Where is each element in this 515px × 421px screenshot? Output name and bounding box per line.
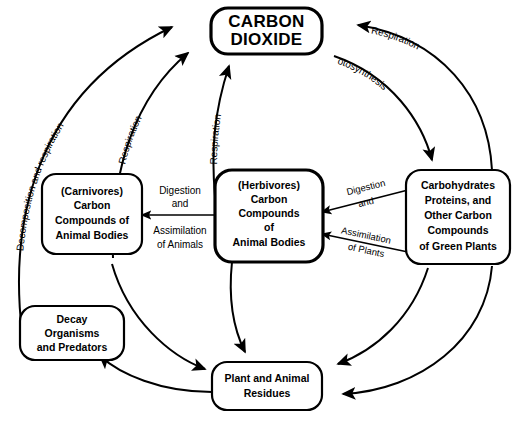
herbivores-line-1: (Herbivores) xyxy=(238,179,300,191)
carnivores-line-4: Animal Bodies xyxy=(56,229,129,241)
diagram-canvas: CARBON DIOXIDE (Carnivores) Carbon Compo… xyxy=(0,0,515,421)
label-assimilation-animals-2: of Animals xyxy=(157,239,203,250)
carnivores-line-3: Compounds of xyxy=(55,214,130,226)
green-plants-line-5: of Green Plants xyxy=(419,240,497,252)
label-assimilation-plants-2: of Plants xyxy=(347,241,386,259)
label-respiration-plants: Respiration xyxy=(370,24,421,51)
label-respiration-carnivores: Respiration xyxy=(116,114,144,165)
herbivores-line-5: Animal Bodies xyxy=(233,236,306,248)
node-decay-organisms[interactable]: Decay Organisms and Predators xyxy=(20,306,124,360)
carbon-dioxide-line-2: DIOXIDE xyxy=(230,30,302,49)
arrow-herbivores-to-residues xyxy=(231,262,245,352)
decay-line-2: Organisms xyxy=(45,327,100,339)
arrow-respiration-plants xyxy=(358,25,492,170)
green-plants-line-2: Proteins, and xyxy=(425,194,492,206)
residues-line-2: Residues xyxy=(244,387,291,399)
decay-line-3: and Predators xyxy=(37,341,108,353)
label-digestion-plants-2: and xyxy=(357,195,375,210)
herbivores-line-4: of xyxy=(264,221,274,233)
carbon-dioxide-line-1: CARBON xyxy=(228,12,304,31)
green-plants-line-3: Other Carbon xyxy=(424,209,492,221)
herbivores-line-3: Compounds xyxy=(238,207,299,219)
green-plants-line-4: Compounds xyxy=(427,224,488,236)
arrow-photosynthesis xyxy=(334,56,432,160)
carbon-cycle-diagram: CARBON DIOXIDE (Carnivores) Carbon Compo… xyxy=(0,0,515,421)
node-carbon-dioxide[interactable]: CARBON DIOXIDE xyxy=(211,8,322,54)
label-digestion-animals-1: Digestion xyxy=(159,185,201,196)
arrow-plants-to-residues-inner xyxy=(338,268,428,364)
node-green-plants[interactable]: Carbohydrates Proteins, and Other Carbon… xyxy=(406,170,510,264)
label-respiration-herbivores: Respiration xyxy=(208,113,223,164)
label-photosynthesis: Photosynthesis xyxy=(0,0,390,92)
label-digestion-animals-2: and xyxy=(172,198,189,209)
arrow-carnivores-to-residues xyxy=(112,264,205,369)
node-herbivores[interactable]: (Herbivores) Carbon Compounds of Animal … xyxy=(215,170,323,262)
node-residues[interactable]: Plant and Animal Residues xyxy=(212,362,322,410)
carnivores-line-1: (Carnivores) xyxy=(61,185,123,197)
residues-line-1: Plant and Animal xyxy=(225,372,310,384)
decay-line-1: Decay xyxy=(57,313,88,325)
arrow-plants-to-residues-outer xyxy=(343,266,492,394)
node-carnivores[interactable]: (Carnivores) Carbon Compounds of Animal … xyxy=(42,174,142,254)
arrow-residues-to-decay xyxy=(100,356,212,392)
label-assimilation-animals-1: Assimilation xyxy=(153,225,206,236)
carnivores-line-2: Carbon xyxy=(74,199,111,211)
green-plants-line-1: Carbohydrates xyxy=(421,179,495,191)
herbivores-line-2: Carbon xyxy=(251,193,288,205)
label-digestion-plants-1: Digestion xyxy=(345,177,386,197)
